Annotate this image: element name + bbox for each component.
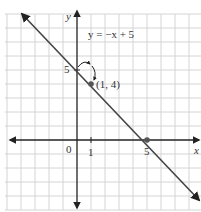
point-5-0 bbox=[144, 137, 150, 143]
x-tick-label-1: 1 bbox=[88, 147, 94, 158]
equation-label: y = −x + 5 bbox=[88, 29, 134, 40]
y-axis-label: y bbox=[66, 11, 71, 22]
x-axis-label: x bbox=[194, 145, 199, 156]
point-label: (1, 4) bbox=[96, 79, 120, 90]
y-tick-label-5: 5 bbox=[64, 64, 70, 75]
x-tick-label-5: 5 bbox=[144, 146, 150, 157]
point-1-4 bbox=[88, 81, 94, 87]
slope-arrow-rise bbox=[92, 66, 95, 80]
slope-arrow-run bbox=[78, 62, 90, 67]
origin-label: 0 bbox=[66, 144, 72, 155]
grid bbox=[5, 14, 201, 210]
